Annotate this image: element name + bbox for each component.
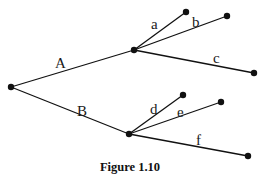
edge-c — [134, 50, 254, 73]
edge-label-c: c — [213, 50, 220, 66]
nodes-group — [8, 9, 257, 159]
node-lc — [251, 70, 257, 76]
edge-a — [134, 12, 186, 50]
node-la — [183, 9, 189, 15]
edge-B — [11, 87, 129, 134]
node-lb — [224, 13, 230, 19]
edge-f — [129, 134, 248, 156]
node-nA — [131, 47, 137, 53]
edge-A — [11, 50, 134, 87]
node-root — [8, 84, 14, 90]
edges-group — [11, 12, 254, 156]
node-ld — [180, 92, 186, 98]
edge-label-d: d — [150, 101, 158, 117]
node-lf — [245, 153, 251, 159]
node-nB — [126, 131, 132, 137]
edge-e — [129, 102, 221, 134]
edge-label-A: A — [55, 55, 66, 71]
edge-label-a: a — [151, 16, 158, 32]
edge-label-b: b — [192, 14, 200, 30]
figure-caption: Figure 1.10 — [100, 160, 160, 174]
edge-label-e: e — [177, 104, 184, 120]
edge-b — [134, 16, 227, 50]
edge-label-f: f — [196, 132, 201, 148]
node-le — [218, 99, 224, 105]
edge-label-B: B — [77, 103, 87, 119]
tree-diagram: ABabcdef Figure 1.10 — [0, 0, 261, 176]
